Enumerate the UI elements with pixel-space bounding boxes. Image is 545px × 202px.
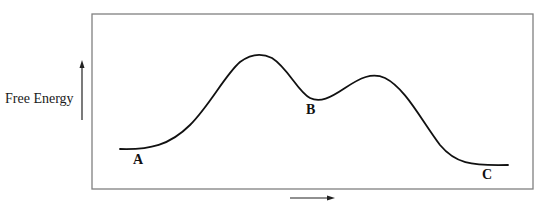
energy-diagram: Free Energy A B C (0, 0, 545, 202)
point-label-a: A (133, 152, 143, 168)
x-axis-arrow-icon (290, 196, 335, 201)
point-label-c: C (482, 167, 492, 183)
point-label-b: B (306, 102, 315, 118)
y-axis-arrow-icon (80, 60, 85, 120)
diagram-canvas (0, 0, 545, 202)
y-axis-label: Free Energy (5, 91, 74, 107)
